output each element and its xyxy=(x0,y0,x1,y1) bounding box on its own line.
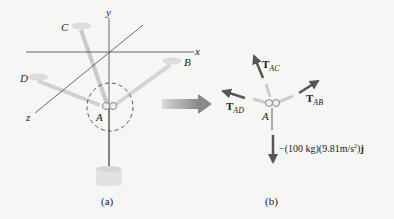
label-t-ad: TAD xyxy=(226,101,244,115)
anchor-b xyxy=(162,58,182,65)
anchor-d xyxy=(28,74,48,81)
stub-ac xyxy=(266,84,270,97)
force-subscript: AC xyxy=(269,64,279,73)
ring-a xyxy=(103,103,110,110)
label-t-ac: TAC xyxy=(262,59,280,73)
point-label-d: D xyxy=(20,73,28,84)
point-label-b: B xyxy=(184,57,191,68)
mass-top xyxy=(96,166,122,172)
axis-label-x: x xyxy=(195,46,200,57)
anchor-c xyxy=(71,23,91,30)
force-subscript: AD xyxy=(233,106,244,115)
unit-vector-j: j xyxy=(360,143,363,154)
caption-b: (b) xyxy=(265,196,278,207)
cable-ab xyxy=(115,65,170,105)
cable-ad xyxy=(38,81,100,105)
ring-b2 xyxy=(273,100,280,107)
label-weight: −(100 kg)(9.81m/s2)j xyxy=(279,143,364,154)
axis-label-y: y xyxy=(106,7,111,18)
point-label-a: A xyxy=(96,112,103,123)
weight-prefix: −(100 kg)(9.81m/s xyxy=(279,143,354,154)
ring-a2 xyxy=(110,103,117,110)
caption-a: (a) xyxy=(101,196,113,207)
axis-label-z: z xyxy=(26,112,30,123)
transition-arrow xyxy=(162,94,212,114)
point-label-c: C xyxy=(61,22,68,33)
diagram-canvas xyxy=(0,0,394,219)
label-t-ab: TAB xyxy=(306,93,323,107)
cable-ac xyxy=(81,30,107,104)
arrow-t-ad xyxy=(223,91,245,98)
ring-b1 xyxy=(266,100,273,107)
point-label-a-fbd: A xyxy=(262,111,269,122)
force-subscript: AB xyxy=(313,98,323,107)
